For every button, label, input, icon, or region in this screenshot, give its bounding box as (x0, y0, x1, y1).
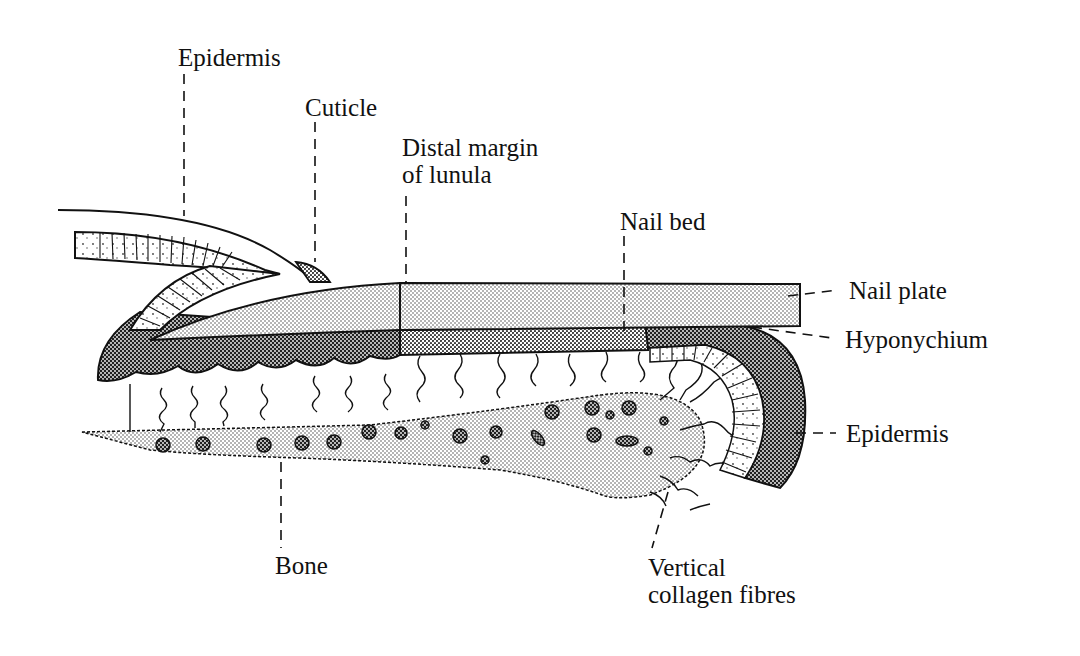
label-hyponychium: Hyponychium (845, 326, 988, 353)
label-distal-margin-line1: Distal margin (402, 134, 538, 161)
label-collagen-line2: collagen fibres (648, 581, 796, 608)
label-bone: Bone (275, 552, 328, 579)
label-epidermis-right: Epidermis (846, 420, 949, 447)
label-epidermis-top: Epidermis (178, 44, 281, 71)
label-nail-bed: Nail bed (620, 208, 705, 235)
label-cuticle: Cuticle (305, 94, 377, 121)
label-nail-plate: Nail plate (849, 277, 947, 304)
bone-region (82, 393, 704, 498)
label-collagen-line1: Vertical (648, 554, 796, 581)
label-distal-margin-of-lunula: Distal margin of lunula (402, 134, 538, 188)
leader-collagen (652, 492, 668, 548)
label-distal-margin-line2: of lunula (402, 161, 538, 188)
label-vertical-collagen-fibres: Vertical collagen fibres (648, 554, 796, 608)
